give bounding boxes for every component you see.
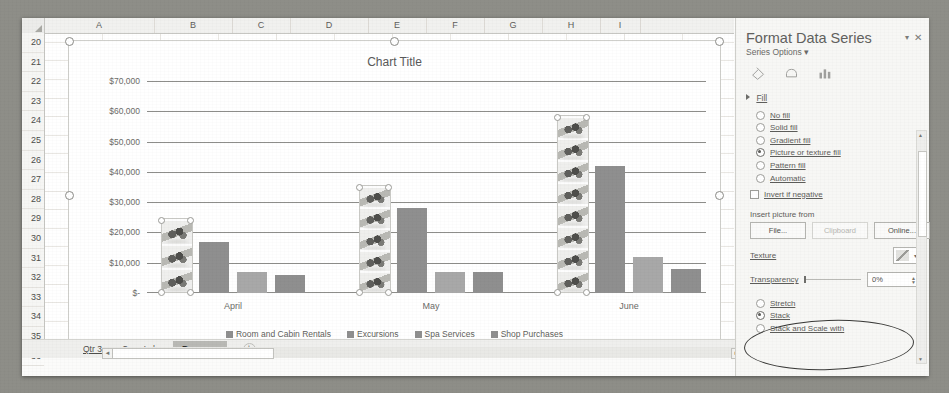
row-header-20[interactable]: 20 [22,33,44,53]
fill-option-automatic[interactable]: Automatic [756,174,929,183]
chart-bar[interactable] [237,272,267,293]
row-header-27[interactable]: 27 [22,170,44,190]
series-selection-handle[interactable] [583,289,590,296]
select-all-corner[interactable] [22,18,45,33]
chart-bar[interactable] [633,257,663,293]
fill-option-gradient-fill[interactable]: Gradient fill [756,136,929,145]
horizontal-scrollbar[interactable]: ◄ ► [102,347,742,358]
series-selection-handle[interactable] [158,289,165,296]
series-options-dropdown[interactable]: Series Options ▾ [736,47,929,57]
legend-item[interactable]: Excursions [347,329,399,339]
chart-bar-picture-fill[interactable] [557,115,589,293]
pane-scroll-up-arrow[interactable]: ▲ [917,131,924,139]
chart-bar[interactable] [397,208,427,293]
option-label: Automatic [770,174,806,183]
column-header-H[interactable]: H [542,18,601,33]
pane-options-chevron-icon[interactable]: ▾ [905,33,909,42]
column-header-C[interactable]: C [232,18,291,33]
fill-section-label: Fill [756,93,767,103]
row-header-column[interactable]: 2021222324252627282930313233343536 [22,33,45,358]
row-header-26[interactable]: 26 [22,151,44,171]
row-header-22[interactable]: 22 [22,72,44,92]
fill-option-pattern-fill[interactable]: Pattern fill [756,161,929,170]
legend-item[interactable]: Spa Services [415,329,475,339]
fill-option-solid-fill[interactable]: Solid fill [756,123,929,132]
texture-row[interactable]: Texture ▾ [736,239,929,264]
column-header-G[interactable]: G [484,18,543,33]
transparency-spinner[interactable]: 0% ▲▼ [867,272,921,287]
row-header-25[interactable]: 25 [22,131,44,151]
effects-icon[interactable] [783,66,800,81]
series-selection-handle[interactable] [187,289,194,296]
cabin-picture-icon [558,118,588,138]
chart-handle-tr[interactable] [715,37,724,46]
series-selection-handle[interactable] [356,184,363,191]
column-header-F[interactable]: F [426,18,485,33]
column-header-A[interactable]: A [44,18,155,33]
chart-bar[interactable] [275,275,305,293]
row-header-24[interactable]: 24 [22,111,44,131]
chart-bar[interactable] [199,242,229,293]
column-header-row[interactable]: ABCDEFGHI [22,18,734,34]
series-selection-handle[interactable] [385,289,392,296]
column-header-I[interactable]: I [600,18,641,33]
row-header-21[interactable]: 21 [22,53,44,73]
legend-label: Excursions [357,329,399,339]
worksheet-grid[interactable]: ABCDEFGHI 202122232425262728293031323334… [22,18,734,358]
pane-scrollbar[interactable]: ▲ ▼ [916,130,927,364]
option-label: Picture or texture fill [770,148,841,157]
format-data-series-pane[interactable]: Format Data Series ▾ ✕ Series Options ▾ … [735,18,929,376]
row-header-23[interactable]: 23 [22,92,44,112]
series-options-icon[interactable] [816,66,833,81]
chart-title[interactable]: Chart Title [69,55,720,69]
pane-scrollbar-thumb[interactable] [918,151,927,237]
row-header-34[interactable]: 34 [22,307,44,327]
chart-handle-mr[interactable] [715,191,724,200]
fill-section-header[interactable]: Fill [736,87,929,103]
chart-bar-picture-fill[interactable] [161,218,193,293]
invert-if-negative-checkbox[interactable]: Invert if negative [736,190,929,199]
row-header-28[interactable]: 28 [22,190,44,210]
row-header-33[interactable]: 33 [22,288,44,308]
insert-picture-file-button[interactable]: File... [750,222,806,239]
slider-thumb[interactable] [804,276,806,283]
chart-bar-picture-fill[interactable] [359,185,391,293]
chart-bar[interactable] [435,272,465,293]
row-header-31[interactable]: 31 [22,249,44,269]
chart-legend[interactable]: Room and Cabin RentalsExcursionsSpa Serv… [69,329,720,339]
column-header-D[interactable]: D [290,18,369,33]
insert-picture-buttons[interactable]: File...ClipboardOnline... [736,222,929,239]
column-header-E[interactable]: E [368,18,427,33]
transparency-slider[interactable] [805,279,861,280]
series-selection-handle[interactable] [385,184,392,191]
tiling-option-stretch[interactable]: Stretch [756,299,929,308]
scrollbar-thumb[interactable] [112,348,274,359]
fill-options-list[interactable]: No fillSolid fillGradient fillPicture or… [736,103,929,183]
chart-handle-tl[interactable] [65,37,74,46]
chart-bar[interactable] [473,272,503,293]
chart-bar[interactable] [671,269,701,293]
legend-label: Room and Cabin Rentals [236,329,331,339]
series-selection-handle[interactable] [356,289,363,296]
pane-scroll-down-arrow[interactable]: ▼ [917,355,924,363]
column-header-B[interactable]: B [154,18,233,33]
fill-option-no-fill[interactable]: No fill [756,111,929,120]
y-axis-tick: $- [132,288,140,298]
row-header-29[interactable]: 29 [22,209,44,229]
pane-icon-tabs[interactable] [736,57,929,87]
legend-item[interactable]: Shop Purchases [491,329,563,339]
fill-option-picture-or-texture-fill[interactable]: Picture or texture fill [756,148,929,157]
cabin-picture-icon [558,140,588,160]
chart-plot-area[interactable]: $-$10,000$20,000$30,000$40,000$50,000$60… [147,81,706,293]
row-header-30[interactable]: 30 [22,229,44,249]
chart-handle-ml[interactable] [65,191,74,200]
pane-close-icon[interactable]: ✕ [914,32,922,43]
chart-object[interactable]: Chart Title $-$10,000$20,000$30,000$40,0… [68,40,721,352]
legend-item[interactable]: Room and Cabin Rentals [226,329,331,339]
row-header-32[interactable]: 32 [22,268,44,288]
chart-handle-tm[interactable] [390,37,399,46]
chart-bar[interactable] [595,166,625,293]
series-selection-handle[interactable] [554,289,561,296]
transparency-row[interactable]: Transparency 0% ▲▼ [736,264,929,287]
fill-and-line-icon[interactable] [750,66,767,81]
